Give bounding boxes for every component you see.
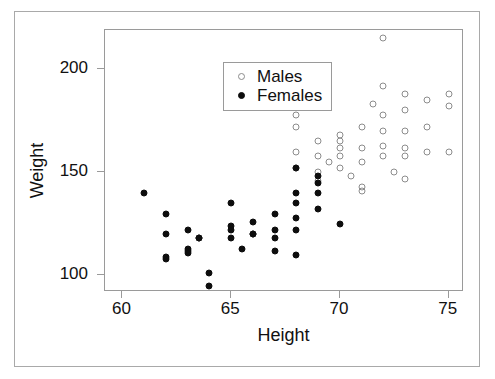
data-point-females [271,235,278,242]
data-point-females [228,227,235,234]
x-axis-tick [339,291,340,298]
data-point-males [315,152,322,159]
legend-item-males: Males [231,67,322,86]
data-point-females [315,179,322,186]
data-point-males [424,97,431,104]
data-point-males [402,128,409,135]
data-point-females [293,200,300,207]
data-point-males [293,148,300,155]
data-point-males [293,123,300,130]
data-point-males [445,90,452,97]
figure-root: Males Females 60657075100150200 Height W… [0,0,495,379]
data-point-females [184,249,191,256]
data-point-males [424,123,431,130]
data-point-males [347,173,354,180]
legend-item-females: Females [231,86,322,105]
legend-label-females: Females [257,86,322,106]
data-point-males [336,165,343,172]
data-point-males [315,138,322,145]
data-point-females [271,227,278,234]
data-point-females [228,200,235,207]
data-point-males [358,123,365,130]
data-point-males [380,142,387,149]
data-point-females [293,227,300,234]
data-point-females [293,165,300,172]
data-point-females [249,231,256,238]
data-point-females [141,189,148,196]
data-point-females [206,270,213,277]
data-point-males [293,111,300,118]
y-axis-tick [97,68,104,69]
y-axis-tick-label: 150 [60,161,88,181]
legend-label-males: Males [257,67,302,87]
y-axis-tick-label: 100 [60,264,88,284]
data-point-males [424,148,431,155]
x-axis-tick-label: 65 [221,299,240,319]
data-point-males [402,90,409,97]
data-point-females [162,231,169,238]
data-point-males [369,101,376,108]
data-point-females [293,189,300,196]
legend-marker-females-wrap [231,92,251,99]
data-point-females [162,255,169,262]
x-axis-tick [230,291,231,298]
data-point-females [195,235,202,242]
data-point-females [271,247,278,254]
data-point-males [380,82,387,89]
data-point-females [271,210,278,217]
data-point-males [380,35,387,42]
data-point-females [162,210,169,217]
x-axis-label: Height [104,325,463,346]
filled-circle-icon [238,92,245,99]
y-axis-tick [97,274,104,275]
y-axis-label: Weight [27,86,48,256]
data-point-males [402,144,409,151]
data-point-females [206,282,213,289]
data-point-females [293,214,300,221]
data-point-males [402,175,409,182]
data-point-females [315,206,322,213]
data-point-males [326,159,333,166]
data-point-males [402,152,409,159]
x-axis-tick-label: 60 [112,299,131,319]
data-point-males [358,159,365,166]
x-axis-tick [121,291,122,298]
plot-panel: Males Females [104,29,463,291]
y-axis-tick-label: 200 [60,58,88,78]
x-axis-tick-label: 70 [330,299,349,319]
data-point-females [315,189,322,196]
data-point-females [184,227,191,234]
data-point-females [249,218,256,225]
x-axis-tick [448,291,449,298]
data-point-males [380,111,387,118]
data-point-males [336,144,343,151]
data-point-males [336,152,343,159]
data-point-males [402,107,409,114]
data-point-males [380,128,387,135]
y-axis-tick [97,171,104,172]
x-axis-tick-label: 75 [438,299,457,319]
data-point-males [358,187,365,194]
data-point-females [336,220,343,227]
open-circle-icon [238,73,245,80]
legend: Males Females [223,62,332,111]
data-point-females [293,251,300,258]
data-point-females [239,245,246,252]
data-point-males [445,148,452,155]
legend-marker-males-wrap [231,73,251,80]
data-point-males [358,144,365,151]
data-point-males [380,152,387,159]
data-point-females [228,235,235,242]
data-point-males [445,103,452,110]
data-point-males [391,169,398,176]
